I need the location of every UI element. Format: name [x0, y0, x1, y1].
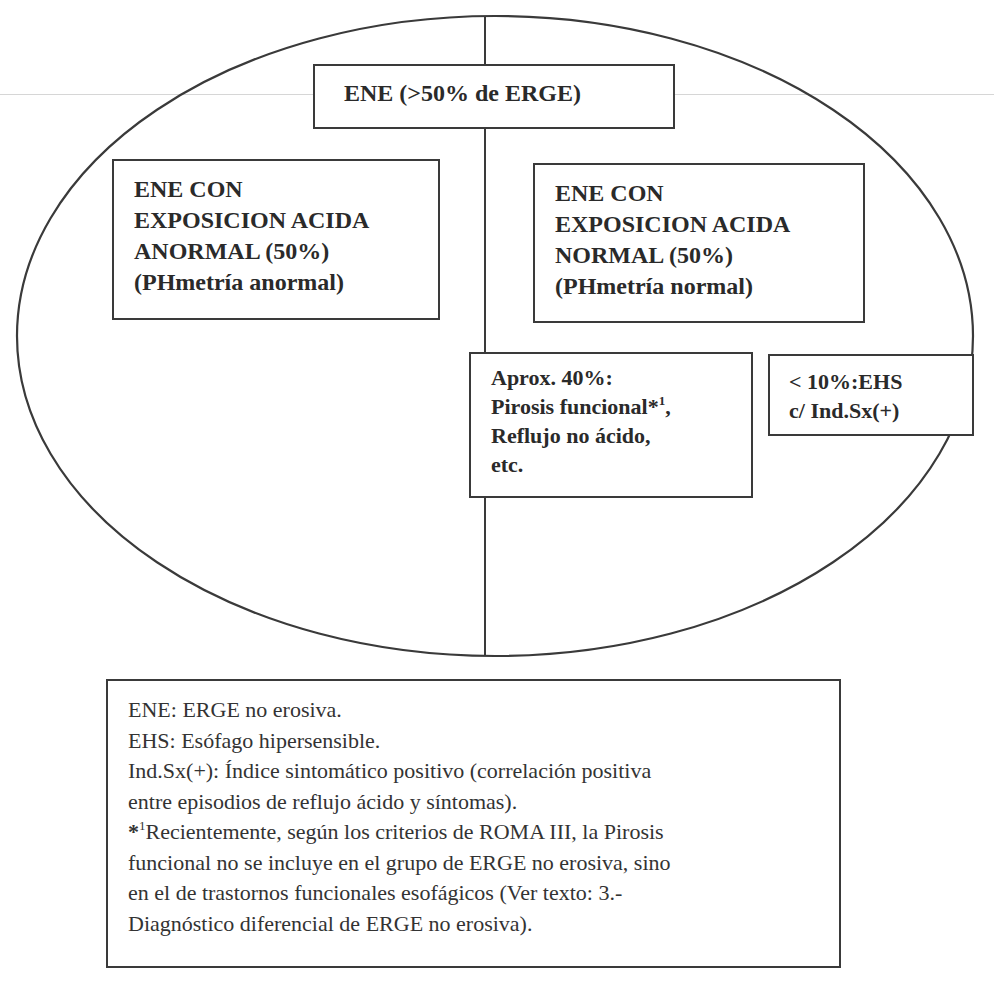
- left-box-line: ENE CON: [134, 174, 438, 205]
- legend-footnote-line: *1Recientemente, según los criterios de …: [128, 817, 829, 848]
- legend-footnote-line: funcional no se incluye en el grupo de E…: [128, 848, 829, 879]
- footnote-asterisk: *: [128, 819, 139, 844]
- legend-footnote-line: Diagnóstico diferencial de ERGE no erosi…: [128, 909, 829, 940]
- top-box-label: ENE (>50% de ERGE): [344, 80, 673, 107]
- aprox-line-2: Pirosis funcional*1,: [491, 392, 751, 421]
- legend-box: ENE: ERGE no erosiva. EHS: Esófago hiper…: [106, 679, 841, 968]
- footnote-text: Recientemente, según los criterios de RO…: [146, 819, 664, 844]
- right-box-line: (PHmetría normal): [555, 271, 863, 302]
- legend-line: EHS: Esófago hipersensible.: [128, 726, 829, 757]
- right-box-line: NORMAL (50%): [555, 240, 863, 271]
- legend-line: Ind.Sx(+): Índice sintomático positivo (…: [128, 756, 829, 787]
- box-abnormal-acid-exposure: ENE CON EXPOSICION ACIDA ANORMAL (50%) (…: [112, 159, 440, 320]
- aprox-line-3: Reflujo no ácido,: [491, 421, 751, 450]
- top-box-ene: ENE (>50% de ERGE): [313, 64, 675, 129]
- aprox-line-4: etc.: [491, 450, 751, 479]
- ehs-line-2: c/ Ind.Sx(+): [789, 396, 972, 425]
- aprox-line-2-comma: ,: [665, 394, 671, 419]
- legend-line: entre episodios de reflujo ácido y sínto…: [128, 787, 829, 818]
- box-hypersensitive-esophagus: < 10%:EHS c/ Ind.Sx(+): [768, 354, 974, 436]
- left-box-line: EXPOSICION ACIDA: [134, 205, 438, 236]
- legend-footnote-line: en el de trastornos funcionales esofágic…: [128, 878, 829, 909]
- left-box-line: (PHmetría anormal): [134, 267, 438, 298]
- legend-line: ENE: ERGE no erosiva.: [128, 695, 829, 726]
- ehs-line-1: < 10%:EHS: [789, 367, 972, 396]
- left-box-line: ANORMAL (50%): [134, 236, 438, 267]
- box-functional-heartburn: Aprox. 40%: Pirosis funcional*1, Reflujo…: [469, 352, 753, 498]
- right-box-line: EXPOSICION ACIDA: [555, 209, 863, 240]
- right-box-line: ENE CON: [555, 178, 863, 209]
- aprox-line-1: Aprox. 40%:: [491, 363, 751, 392]
- aprox-line-2-text: Pirosis funcional*: [491, 394, 659, 419]
- box-normal-acid-exposure: ENE CON EXPOSICION ACIDA NORMAL (50%) (P…: [533, 163, 865, 323]
